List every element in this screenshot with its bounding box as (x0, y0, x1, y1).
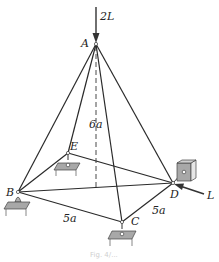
load-label-L: L (206, 189, 214, 202)
dimension-label-height: 6a (89, 118, 103, 131)
load-2L-arrow (93, 7, 100, 43)
member-BE (18, 153, 68, 192)
member-AE (68, 44, 96, 153)
support-E (54, 153, 80, 176)
member-AD (96, 44, 173, 183)
truss-diagram: 2L A 6a E B D L 5a C 5a Fig. 4/... (0, 0, 219, 262)
node-label-E: E (69, 140, 78, 153)
figure-caption: Fig. 4/... (90, 251, 118, 259)
node-label-D: D (169, 188, 179, 201)
dimension-label-BC: 5a (63, 212, 77, 225)
node-label-A: A (80, 37, 89, 50)
truss-members (18, 44, 173, 222)
load-label-2L: 2L (99, 10, 114, 23)
member-ED (68, 153, 173, 183)
support-D (173, 160, 196, 183)
member-BD (18, 183, 173, 192)
node-label-B: B (5, 186, 14, 199)
node-label-C: C (131, 215, 140, 228)
member-AC (96, 44, 122, 222)
dimension-label-CD: 5a (152, 204, 166, 217)
support-B (4, 197, 30, 216)
joints (16, 42, 174, 223)
